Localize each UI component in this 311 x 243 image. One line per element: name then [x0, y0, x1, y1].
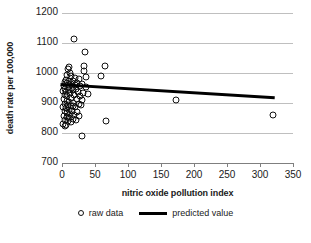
x-axis-tick-mark	[260, 163, 261, 167]
scatter-chart-figure: death rate per 100,000 70080090010001100…	[0, 0, 311, 243]
x-axis-tick-mark	[227, 163, 228, 167]
x-axis-tick-label: 100	[110, 169, 146, 180]
x-axis-tick-mark	[62, 163, 63, 167]
x-axis-tick-label: 350	[275, 169, 311, 180]
legend-item-raw-data: raw data	[78, 208, 124, 218]
legend-item-predicted-value: predicted value	[139, 208, 233, 218]
x-axis-tick-label: 200	[176, 169, 212, 180]
y-axis-tick-label: 1200	[18, 6, 58, 17]
y-axis-tick-label: 900	[18, 96, 58, 107]
predicted-value-trendline	[62, 13, 293, 163]
x-axis-tick-mark	[161, 163, 162, 167]
x-axis-tick-mark	[194, 163, 195, 167]
x-axis-line	[62, 163, 293, 164]
x-axis-title: nitric oxide pollution index	[122, 188, 234, 198]
y-axis-tick-label: 1100	[18, 36, 58, 47]
x-axis-tick-label: 250	[209, 169, 245, 180]
chart-legend: raw data predicted value	[0, 205, 311, 221]
y-axis-tick-label: 800	[18, 126, 58, 137]
y-axis-tick-label: 1000	[18, 66, 58, 77]
x-axis-tick-mark	[293, 163, 294, 167]
x-axis-tick-mark	[128, 163, 129, 167]
x-axis-tick-label: 300	[242, 169, 278, 180]
legend-label-raw-data: raw data	[89, 208, 124, 218]
line-swatch-icon	[139, 212, 167, 215]
legend-label-predicted-value: predicted value	[172, 208, 233, 218]
x-axis-tick-label: 0	[44, 169, 80, 180]
plot-area	[62, 13, 293, 163]
y-axis-tick-labels: 700800900100011001200	[14, 13, 58, 163]
x-axis-title-container: nitric oxide pollution index	[62, 186, 293, 200]
x-axis-tick-label: 150	[143, 169, 179, 180]
x-axis-tick-mark	[95, 163, 96, 167]
x-axis-tick-label: 50	[77, 169, 113, 180]
open-circle-icon	[78, 210, 84, 216]
x-axis-tick-labels: 050100150200250300350	[0, 169, 311, 183]
y-axis-tick-label: 700	[18, 156, 58, 167]
